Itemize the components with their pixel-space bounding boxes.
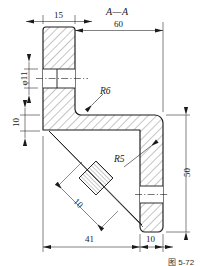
dimension-label-41: 41 bbox=[85, 235, 94, 244]
radius-label-r5: R5 bbox=[114, 155, 125, 165]
dimension-label-10-bottom: 10 bbox=[146, 235, 155, 244]
part-body bbox=[36, 27, 169, 232]
drawing-canvas: A—A 15 60 φ11 10 50 41 10 10 R6 R5 图 5-7… bbox=[0, 0, 207, 266]
radius-label-r6: R6 bbox=[100, 87, 111, 97]
dimension-label-10-left: 10 bbox=[12, 112, 21, 134]
dimension-label-phi11: φ11 bbox=[20, 65, 29, 93]
figure-caption: 图 5-72 bbox=[168, 256, 194, 266]
dimension-label-15: 15 bbox=[54, 11, 63, 20]
technical-drawing-svg bbox=[0, 0, 207, 266]
dimension-label-60: 60 bbox=[114, 20, 123, 29]
section-title: A—A bbox=[106, 7, 129, 17]
dimension-label-50: 50 bbox=[183, 162, 192, 184]
